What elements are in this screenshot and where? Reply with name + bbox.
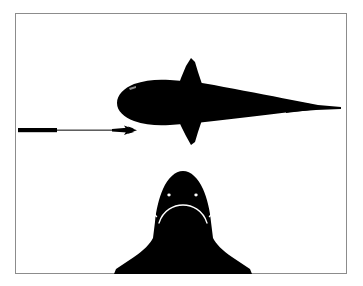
scale-bar-thick-segment — [18, 128, 57, 132]
shark-illustration — [0, 0, 363, 286]
scale-bar-thin-line — [57, 130, 121, 131]
dorsal-body-shape — [117, 80, 341, 126]
scale-bar-taper — [112, 128, 127, 133]
frontal-left-eye — [167, 194, 170, 197]
shark-frontal-silhouette — [114, 171, 252, 274]
shark-dorsal-silhouette — [117, 58, 341, 145]
frontal-right-eye — [194, 194, 197, 197]
figure-root — [0, 0, 363, 286]
scale-bar-with-arrow — [18, 125, 137, 135]
